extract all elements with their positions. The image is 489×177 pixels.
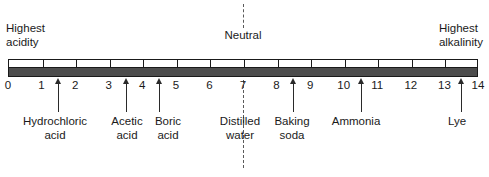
neutral-caption: Neutral <box>224 29 261 43</box>
pointer-arrow-acetic-acid <box>123 78 129 84</box>
scale-tick-mark <box>210 60 211 68</box>
tick-label-0: 0 <box>5 79 11 92</box>
pointer-arrow-ammonia <box>358 78 364 84</box>
scale-tick-mark <box>43 60 44 68</box>
tick-label-10: 10 <box>337 79 350 92</box>
scale-tick-mark <box>143 60 144 68</box>
scale-tick-mark <box>278 60 279 68</box>
tick-label-5: 5 <box>173 79 179 92</box>
scale-tick-mark <box>412 60 413 68</box>
substance-label-ammonia: Ammonia <box>332 115 381 129</box>
tick-label-2: 2 <box>72 79 78 92</box>
ph-scale-bar <box>8 59 478 77</box>
tick-label-1: 1 <box>38 79 44 92</box>
pointer-arrow-lye <box>458 78 464 84</box>
tick-label-13: 13 <box>438 79 451 92</box>
tick-label-11: 11 <box>371 79 383 92</box>
pointer-arrow-boric-acid <box>156 78 162 84</box>
tick-label-7: 7 <box>240 79 246 92</box>
tick-label-14: 14 <box>472 79 485 92</box>
scale-tick-mark <box>244 60 245 68</box>
substance-label-distilled-water: Distilled water <box>220 115 260 142</box>
highest-acidity-caption: Highest acidity <box>6 22 45 49</box>
highest-alkalinity-caption: Highest alkalinity <box>439 22 483 49</box>
pointer-line-boric-acid <box>159 84 160 112</box>
tick-label-12: 12 <box>404 79 417 92</box>
scale-tick-mark <box>110 60 111 68</box>
scale-tick-mark <box>345 60 346 68</box>
neutral-dashed-line-top <box>243 4 244 28</box>
tick-label-3: 3 <box>106 79 112 92</box>
scale-tick-mark <box>177 60 178 68</box>
pointer-arrow-baking-soda <box>290 78 296 84</box>
pointer-line-acetic-acid <box>126 84 127 112</box>
substance-label-acetic-acid: Acetic acid <box>111 115 142 142</box>
ph-scale-figure: Highest acidity Highest alkalinity Neutr… <box>0 0 489 177</box>
pointer-line-baking-soda <box>293 84 294 112</box>
tick-label-6: 6 <box>206 79 212 92</box>
pointer-line-ammonia <box>361 84 362 112</box>
scale-tick-mark <box>311 60 312 68</box>
tick-label-9: 9 <box>307 79 313 92</box>
pointer-line-hydrochloric-acid <box>58 84 59 112</box>
pointer-arrow-hydrochloric-acid <box>55 78 61 84</box>
pointer-line-lye <box>461 84 462 112</box>
substance-label-hydrochloric-acid: Hydrochloric acid <box>23 115 87 142</box>
substance-label-lye: Lye <box>448 115 466 129</box>
substance-label-baking-soda: Baking soda <box>274 115 309 142</box>
scale-tick-mark <box>445 60 446 68</box>
tick-label-4: 4 <box>139 79 145 92</box>
scale-tick-mark <box>76 60 77 68</box>
ph-scale-bar-fill <box>9 67 477 76</box>
tick-label-8: 8 <box>273 79 279 92</box>
scale-tick-mark <box>378 60 379 68</box>
substance-label-boric-acid: Boric acid <box>155 115 181 142</box>
